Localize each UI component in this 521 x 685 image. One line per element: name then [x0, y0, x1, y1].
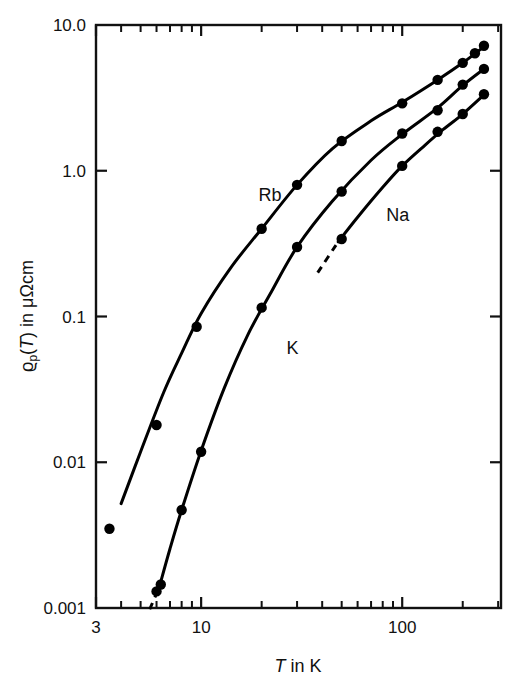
data-point [432, 105, 442, 115]
data-point [458, 109, 468, 119]
x-axis-title-rest: in K [285, 656, 321, 676]
series-label-K: K [287, 338, 299, 358]
data-point [479, 41, 489, 51]
x-tick-label: 100 [388, 618, 416, 637]
figure-container: 310100 0.0010.010.11.010.0 RbKNa T in K … [0, 0, 521, 685]
x-tick-label: 10 [192, 618, 211, 637]
data-point [336, 186, 346, 196]
data-point [432, 75, 442, 85]
y-axis-title-rest: in μΩcm [17, 260, 37, 332]
series-label-Na: Na [386, 205, 410, 225]
data-point [458, 58, 468, 68]
y-tick-label: 0.001 [43, 599, 86, 618]
data-point [479, 89, 489, 99]
y-axis-title: ϱp(T) in μΩcm [17, 260, 40, 372]
series-label-Rb: Rb [258, 185, 281, 205]
x-axis-title: T in K [274, 656, 321, 676]
data-point [470, 48, 480, 58]
data-point [479, 64, 489, 74]
data-point [156, 579, 166, 589]
y-tick-label: 0.1 [62, 308, 86, 327]
data-point [256, 302, 266, 312]
x-tick-label: 3 [91, 618, 100, 637]
data-point [292, 242, 302, 252]
y-axis-title-rho: ϱ [17, 362, 37, 372]
data-point [151, 420, 161, 430]
data-point [432, 127, 442, 137]
data-point [397, 161, 407, 171]
resistivity-log-log-plot: 310100 0.0010.010.11.010.0 RbKNa T in K … [0, 0, 521, 685]
y-tick-label: 10.0 [53, 16, 86, 35]
y-tick-label: 0.01 [53, 453, 86, 472]
data-point [256, 224, 266, 234]
data-point [176, 505, 186, 515]
y-tick-label: 1.0 [62, 162, 86, 181]
data-point [397, 128, 407, 138]
data-point [292, 180, 302, 190]
data-point [397, 98, 407, 108]
data-point [196, 447, 206, 457]
data-point [458, 79, 468, 89]
data-point [336, 136, 346, 146]
data-point [191, 322, 201, 332]
data-point [104, 524, 114, 534]
data-point [336, 234, 346, 244]
